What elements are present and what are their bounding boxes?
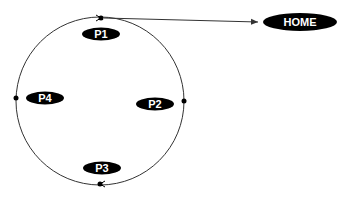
node-p3: P3 [83, 162, 121, 175]
node-p1-label: P1 [94, 28, 107, 40]
node-home: HOME [263, 13, 337, 31]
node-p1: P1 [82, 28, 120, 41]
node-p2-label: P2 [148, 98, 161, 110]
node-home-label: HOME [284, 16, 317, 28]
top-point-marker [96, 15, 104, 21]
node-p4: P4 [26, 92, 64, 105]
node-p4-label: P4 [38, 92, 52, 104]
node-p3-label: P3 [95, 162, 108, 174]
left-point-marker [14, 96, 19, 101]
node-p2: P2 [136, 98, 174, 111]
bottom-point-marker [98, 181, 106, 187]
right-point-marker [182, 99, 187, 104]
diagram-canvas: P1 P2 P3 P4 HOME [0, 0, 352, 200]
